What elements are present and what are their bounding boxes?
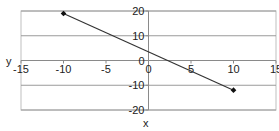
x-tick-label: -15 bbox=[13, 63, 29, 75]
y-tick-label: 20 bbox=[132, 5, 144, 17]
x-tick-label: -5 bbox=[101, 63, 111, 75]
y-tick-label: -20 bbox=[129, 104, 145, 116]
x-tick-label: 15 bbox=[270, 63, 279, 75]
x-tick-label: -10 bbox=[56, 63, 72, 75]
y-tick-label: -10 bbox=[129, 79, 145, 91]
y-axis-label: y bbox=[6, 55, 12, 67]
x-tick-label: 10 bbox=[227, 63, 239, 75]
x-tick-label: 0 bbox=[145, 63, 151, 75]
y-tick-label: 10 bbox=[132, 30, 144, 42]
y-tick-label: 0 bbox=[138, 55, 144, 67]
line-chart: -15-10-505101520100-10-20 y x bbox=[0, 0, 279, 131]
x-tick-label: 5 bbox=[188, 63, 194, 75]
x-axis-label: x bbox=[143, 117, 149, 129]
